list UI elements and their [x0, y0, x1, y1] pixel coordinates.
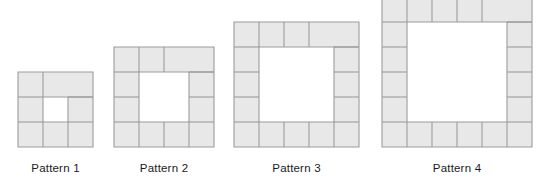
pattern-3: [234, 22, 359, 147]
pattern-2-tiling: [114, 47, 214, 147]
pattern-1-tiling: [18, 72, 93, 147]
pattern-3-label: Pattern 3: [234, 162, 359, 174]
pattern-2: [114, 47, 214, 147]
pattern-2-label: Pattern 2: [114, 162, 214, 174]
pattern-3-frame: [234, 22, 359, 147]
pattern-3-tiling: [234, 22, 359, 147]
pattern-1: [18, 72, 93, 147]
pattern-1-frame: [18, 72, 93, 147]
figure-canvas: Pattern 1Pattern 2Pattern 3Pattern 4: [0, 0, 553, 179]
pattern-4-label: Pattern 4: [382, 162, 532, 174]
pattern-4: [382, 0, 532, 147]
pattern-4-tiling: [382, 0, 532, 147]
pattern-1-label: Pattern 1: [18, 162, 93, 174]
